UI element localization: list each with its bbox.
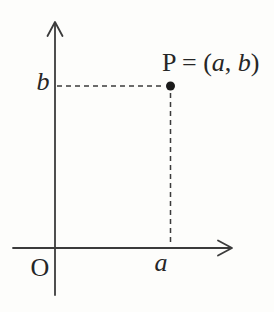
coordinate-plane-canvas: P = (a, b) b a O [0, 0, 274, 312]
x-value-label: a [155, 248, 168, 277]
point-label-y-var: b [238, 48, 251, 77]
point-label-suffix: ) [251, 48, 260, 77]
point-label-separator: , [225, 48, 238, 77]
coordinate-plane-figure: P = (a, b) b a O [0, 0, 274, 312]
point-label-prefix: P = ( [162, 48, 212, 77]
origin-label: O [31, 253, 50, 282]
point-marker [166, 82, 175, 91]
point-label-x-var: a [212, 48, 225, 77]
y-value-label: b [37, 67, 50, 96]
point-label: P = (a, b) [162, 48, 260, 77]
